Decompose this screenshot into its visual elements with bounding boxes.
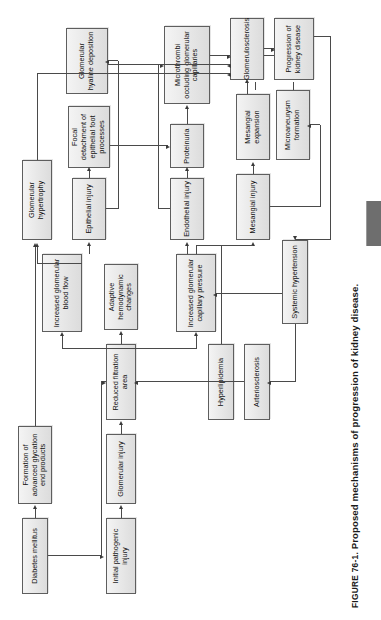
edge-line: [196, 246, 197, 254]
edge-line: [270, 206, 320, 207]
edge-line: [264, 55, 274, 56]
node-label: Reduced filtration area: [112, 347, 130, 417]
node-hyperlipidemia: Hyperlipidemia: [208, 344, 234, 420]
node-label: Arteriosclerosis: [253, 357, 262, 407]
node-label: Glomerular injury: [117, 441, 126, 497]
edge-line: [118, 61, 119, 209]
edge-line: [253, 166, 254, 174]
edge-line: [255, 82, 256, 90]
node-label: Formation of advanced glycation end prod…: [22, 429, 49, 501]
node-label: Initial pathogenic injury: [112, 521, 130, 591]
edge-line: [35, 246, 36, 426]
edge-arrowhead: [185, 167, 189, 171]
edge-line: [158, 208, 170, 209]
node-reduced-filtration-area: Reduced filtration area: [106, 344, 136, 420]
edge-line: [121, 334, 122, 344]
edge-line: [158, 65, 159, 209]
edge-arrowhead: [60, 332, 64, 336]
edge-line: [62, 335, 63, 349]
edge-line: [187, 108, 188, 124]
node-label: Epithelial injury: [85, 184, 94, 233]
edge-line: [293, 82, 294, 90]
node-progression-of-kidney-disease: Progression of kidney disease: [274, 18, 314, 80]
node-label: Focal detachment of epithelial foot proc…: [71, 109, 107, 165]
edge-arrowhead: [185, 242, 189, 246]
edge-arrowhead: [227, 64, 231, 68]
node-epithelial-injury: Epithelial injury: [72, 178, 106, 240]
node-label: Glomerulosclerosis: [243, 18, 252, 80]
edge-line: [196, 245, 253, 246]
edge-arrowhead: [227, 55, 231, 59]
edge-line: [136, 381, 244, 382]
edge-line: [270, 381, 295, 382]
node-increased-glomerular-capillary-pressure: Increased glomerular capillary pressure: [176, 254, 216, 332]
edge-line: [295, 239, 330, 240]
node-glomerular-hyaline-deposition: Glomerular hyaline deposition: [66, 28, 108, 94]
edge-arrowhead: [271, 48, 275, 52]
edge-line: [187, 170, 188, 178]
edge-arrowhead: [119, 505, 123, 509]
node-diabetes-mellitus: Diabetes mellitus: [22, 518, 48, 594]
edge-line: [37, 73, 230, 74]
node-label: Diabetes mellitus: [31, 528, 40, 584]
edge-line: [295, 238, 296, 240]
edge-line: [37, 263, 82, 264]
node-adaptive-hemodynamic-changes: Adaptive hemodynamic changes: [104, 264, 138, 330]
edge-line: [121, 508, 122, 518]
node-microaneurysm-formation: Microaneurysm formation: [276, 90, 310, 160]
node-label: Microthrombi occluding glomerular capill…: [174, 29, 201, 101]
edge-line: [110, 145, 168, 146]
edge-arrowhead: [227, 73, 231, 77]
edge-line: [89, 170, 90, 178]
edge-line: [310, 124, 320, 125]
edge-arrowhead: [87, 242, 91, 246]
node-mesangial-expansion: Mesangial expansion: [236, 94, 270, 160]
node-label: Mesangial injury: [249, 181, 258, 234]
node-glomerular-injury: Glomerular injury: [106, 434, 136, 504]
edge-line: [196, 335, 197, 349]
node-label: Proteinuria: [183, 128, 192, 163]
edge-line: [108, 60, 118, 61]
figure-title: Proposed mechanisms of progression of ki…: [349, 284, 360, 549]
node-label: Progression of kidney disease: [285, 21, 303, 77]
edge-arrowhead: [194, 332, 198, 336]
node-microthrombi-occluding-glomerular-capillaries: Microthrombi occluding glomerular capill…: [164, 26, 210, 104]
edge-arrowhead: [87, 167, 91, 171]
node-focal-detachment-epithelial-foot-processes: Focal detachment of epithelial foot proc…: [68, 106, 110, 168]
node-label: Increased glomerular capillary pressure: [187, 257, 205, 329]
edge-arrowhead: [185, 105, 189, 109]
edge-arrowhead: [119, 421, 123, 425]
edge-line: [121, 424, 122, 434]
node-label: Adaptive hemodynamic changes: [108, 267, 135, 327]
edge-line: [295, 324, 296, 382]
edge-arrowhead: [102, 381, 106, 385]
node-label: Microaneurysm formation: [284, 93, 302, 157]
node-label: Glomerular hypertrophy: [28, 163, 46, 237]
edge-arrowhead: [251, 162, 255, 166]
edge-line: [314, 36, 330, 37]
printed-thumb-tab: [366, 201, 381, 246]
node-systemic-hypertension: Systemic hypertension: [282, 240, 308, 324]
edge-line: [48, 555, 101, 556]
edge-arrowhead: [105, 60, 109, 64]
figure-number: FIGURE 76-1.: [350, 552, 360, 608]
node-glomerular-hypertrophy: Glomerular hypertrophy: [22, 160, 52, 240]
edge-line: [320, 125, 321, 207]
node-endothelial-injury: Endothelial injury: [170, 178, 204, 240]
node-initial-pathogenic-injury: Initial pathogenic injury: [106, 518, 136, 594]
edge-arrowhead: [245, 79, 249, 83]
edge-line: [247, 82, 248, 94]
edge-arrowhead: [307, 124, 311, 128]
edge-line: [108, 64, 230, 65]
edge-line: [35, 508, 36, 518]
node-label: Endothelial injury: [183, 181, 192, 237]
node-label: Systemic hypertension: [291, 245, 300, 318]
node-advanced-glycation-end-products: Formation of advanced glycation end prod…: [18, 426, 52, 504]
edge-line: [216, 293, 282, 294]
edge-arrowhead: [35, 243, 39, 247]
edge-line: [37, 74, 38, 160]
node-glomerulosclerosis: Glomerulosclerosis: [230, 18, 264, 80]
edge-arrowhead: [119, 331, 123, 335]
edge-line: [330, 36, 331, 240]
